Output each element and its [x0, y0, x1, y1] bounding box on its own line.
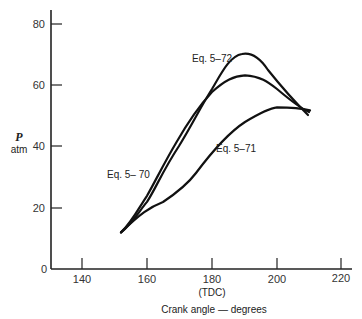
- label-eq-5-72: Eq. 5–72: [192, 53, 232, 64]
- x-tick-label-160: 160: [138, 273, 156, 285]
- pressure-vs-crank-angle-chart: 80 60 40 20 0 140 160 180 200 220 (TDC) …: [0, 0, 362, 319]
- x-tick-label-140: 140: [73, 273, 91, 285]
- x-tick-label-200: 200: [268, 273, 286, 285]
- label-eq-5-70: Eq. 5– 70: [107, 169, 150, 180]
- y-tick-label-20: 20: [33, 202, 45, 214]
- label-eq-5-71: Eq. 5–71: [216, 143, 256, 154]
- x-ticks: [82, 258, 341, 269]
- x-tick-label-180: 180: [203, 273, 221, 285]
- x-tick-label-220: 220: [332, 272, 350, 284]
- y-axis-unit: atm: [11, 144, 28, 155]
- y-axis-symbol: P: [15, 130, 23, 144]
- y-tick-label-0: 0: [41, 263, 47, 275]
- x-axis-title: Crank angle — degrees: [161, 304, 267, 315]
- y-tick-label-80: 80: [33, 18, 45, 30]
- curve-eq-5-72: [121, 54, 308, 233]
- y-ticks: [51, 24, 62, 208]
- y-tick-label-40: 40: [33, 140, 45, 152]
- tdc-annotation: (TDC): [198, 287, 225, 298]
- y-tick-label-60: 60: [33, 79, 45, 91]
